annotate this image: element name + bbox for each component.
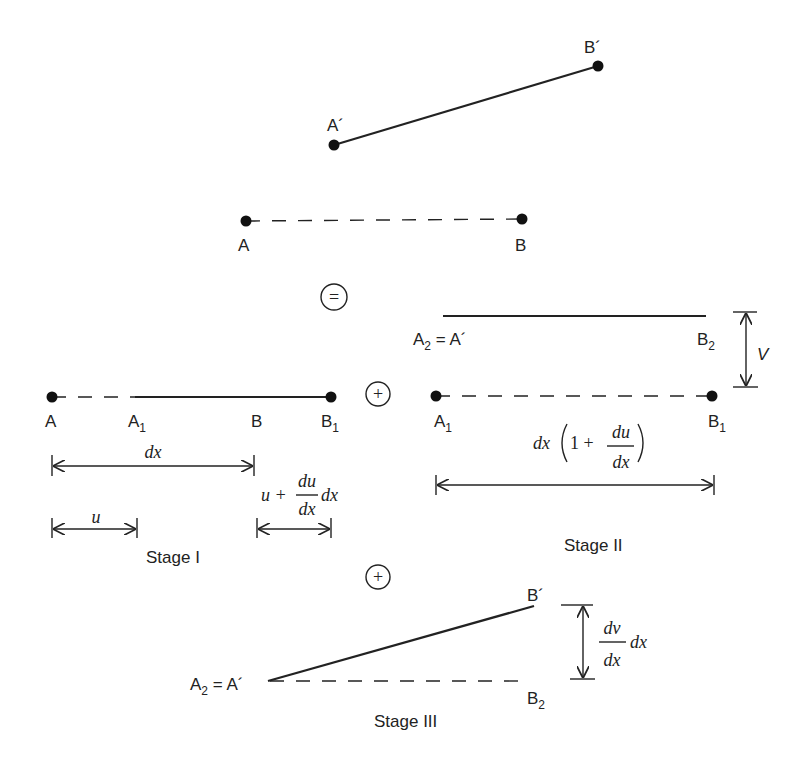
- stage1-du-tail: dx: [321, 485, 338, 505]
- stage1-point-a: [47, 392, 58, 403]
- stage1-label-b: B: [251, 412, 262, 431]
- stage-2: A2 = A´ B2 A1 B1 V dx 1 + du dx Stage II: [413, 312, 770, 555]
- stage3-caption: Stage III: [374, 712, 437, 731]
- stage2-caption: Stage II: [564, 536, 623, 555]
- stage1-label-a1: A1: [128, 412, 146, 435]
- stage2-point-b1: [707, 391, 718, 402]
- stage2-point-a1: [431, 391, 442, 402]
- stage1-du-den: dx: [299, 499, 316, 519]
- svg-text:+: +: [373, 384, 383, 404]
- label-b: B: [515, 236, 526, 255]
- stage3-tail: dx: [630, 632, 647, 652]
- point-a: [241, 216, 252, 227]
- stage2-v-label: V: [757, 345, 770, 364]
- label-b-prime: B´: [584, 38, 601, 57]
- original-segment: A B: [238, 214, 528, 256]
- stage2-label-b1: B1: [708, 412, 726, 435]
- stage2-label-b2: B2: [697, 330, 715, 353]
- equals-operator: =: [321, 284, 347, 310]
- stage1-point-b1: [326, 392, 337, 403]
- stage-3: A2 = A´ B´ B2 dv dx dx Stage III: [190, 586, 647, 731]
- stage3-num: dv: [604, 618, 621, 638]
- stage1-caption: Stage I: [146, 548, 200, 567]
- stage3-label-b2: B2: [527, 689, 545, 712]
- stage2-num: du: [612, 422, 630, 442]
- stage2-label-a2: A2 = A´: [413, 330, 466, 353]
- stage1-uplus: u +: [261, 485, 287, 505]
- plus-operator-1: +: [366, 382, 390, 406]
- label-a: A: [238, 236, 250, 255]
- stage2-dx: dx: [533, 433, 550, 453]
- stage-1: A A1 B B1 dx u u + du dx dx Stage I: [45, 392, 339, 568]
- stage1-label-a: A: [45, 412, 57, 431]
- stage2-label-a1: A1: [434, 412, 452, 435]
- stage1-u-label: u: [92, 507, 101, 527]
- stage3-label-b-prime: B´: [527, 586, 544, 605]
- point-a-prime: [329, 140, 340, 151]
- stage1-du-num: du: [298, 471, 316, 491]
- stage3-label-a2: A2 = A´: [190, 675, 243, 698]
- point-b: [517, 214, 528, 225]
- plus-operator-2: +: [366, 565, 390, 589]
- equals-sign: =: [329, 287, 339, 307]
- stage1-dx-label: dx: [145, 442, 162, 462]
- stage3-den: dx: [604, 650, 621, 670]
- stage2-one-plus: 1 +: [570, 433, 594, 453]
- stage2-den: dx: [613, 452, 630, 472]
- label-a-prime: A´: [327, 116, 344, 135]
- point-b-prime: [593, 61, 604, 72]
- stage1-label-b1: B1: [321, 412, 339, 435]
- strain-diagram: A´ B´ A B = A A1 B B1 dx u u + du: [0, 0, 809, 767]
- svg-text:+: +: [373, 567, 383, 587]
- deformed-segment: A´ B´: [327, 38, 604, 151]
